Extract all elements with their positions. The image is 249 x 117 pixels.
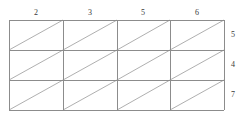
cell-diagonal: [9, 20, 63, 50]
grid-lines-group: [9, 20, 224, 110]
cell-diagonal: [117, 20, 170, 50]
cell-diagonal: [63, 50, 117, 80]
cell-diagonal: [63, 80, 117, 110]
cell-diagonal: [9, 50, 63, 80]
column-label: 5: [141, 9, 145, 17]
row-label: 7: [231, 91, 235, 99]
cell-diagonal: [170, 50, 224, 80]
column-label: 2: [34, 9, 38, 17]
cell-diagonal: [117, 80, 170, 110]
column-label: 3: [88, 9, 92, 17]
cell-diagonal: [170, 20, 224, 50]
figure-container: 2356 547: [0, 0, 249, 117]
row-label: 5: [231, 31, 235, 39]
cell-diagonal: [117, 50, 170, 80]
cell-diagonal: [63, 20, 117, 50]
grid-diagram: [0, 0, 249, 117]
cell-diagonal: [170, 80, 224, 110]
column-label: 6: [195, 9, 199, 17]
row-label: 4: [231, 61, 235, 69]
cell-diagonal: [9, 80, 63, 110]
